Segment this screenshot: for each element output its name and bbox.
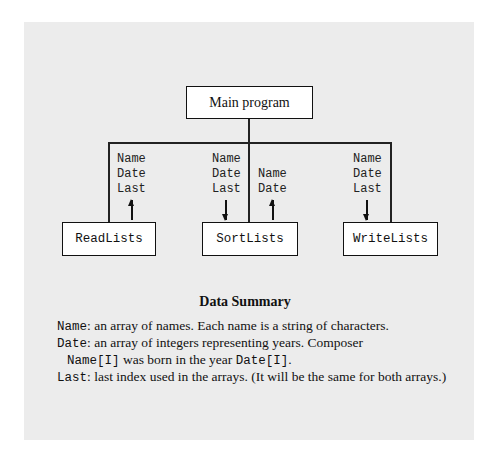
param-name: Name	[212, 152, 241, 167]
param-date: Date	[258, 182, 287, 197]
summary-entry-name: Name: an array of names. Each name is a …	[57, 318, 446, 335]
sortlists-box: SortLists	[202, 222, 298, 256]
arrow-up-icon	[272, 200, 274, 220]
param-date: Date	[117, 167, 146, 182]
param-name: Name	[258, 167, 287, 182]
branch-left-line	[108, 142, 110, 222]
param-name: Name	[117, 152, 146, 167]
param-date: Date	[212, 167, 241, 182]
summary-entry-date: Date: an array of integers representing …	[57, 335, 446, 352]
sortlists-output-params: Name Date	[258, 167, 287, 197]
writelists-label: WriteLists	[353, 232, 428, 246]
readlists-box: ReadLists	[62, 222, 156, 256]
main-program-box: Main program	[186, 86, 313, 119]
term: Date	[57, 337, 87, 351]
arrow-down-icon	[366, 200, 368, 220]
data-summary-body: Name: an array of names. Each name is a …	[57, 318, 446, 386]
branch-right-line	[390, 142, 392, 222]
sortlists-label: SortLists	[216, 232, 284, 246]
data-summary-title: Data Summary	[0, 294, 490, 310]
param-last: Last	[212, 182, 241, 197]
definition: an array of names. Each name is a string…	[91, 318, 389, 333]
param-last: Last	[353, 182, 382, 197]
definition: an array of integers representing years.…	[91, 335, 363, 350]
summary-entry-last: Last: last index used in the arrays. (It…	[57, 369, 446, 386]
arrow-up-icon	[131, 200, 133, 220]
term: Name	[57, 320, 87, 334]
arrow-down-icon	[225, 200, 227, 220]
param-date: Date	[353, 167, 382, 182]
term: Last	[57, 371, 87, 385]
main-program-label: Main program	[209, 95, 289, 111]
branch-horizontal-line	[108, 142, 391, 144]
readlists-output-params: Name Date Last	[117, 152, 146, 197]
period: .	[288, 352, 291, 367]
param-last: Last	[117, 182, 146, 197]
definition: last index used in the arrays. (It will …	[91, 369, 446, 384]
sortlists-input-params: Name Date Last	[212, 152, 241, 197]
definition: was born in the year	[120, 352, 236, 367]
code-date-index: Date[I]	[236, 354, 289, 368]
readlists-label: ReadLists	[75, 232, 143, 246]
param-name: Name	[353, 152, 382, 167]
writelists-box: WriteLists	[343, 222, 438, 256]
code-name-index: Name[I]	[67, 354, 120, 368]
summary-entry-date-continued: Name[I] was born in the year Date[I].	[57, 352, 446, 369]
trunk-line	[248, 119, 250, 222]
writelists-input-params: Name Date Last	[353, 152, 382, 197]
